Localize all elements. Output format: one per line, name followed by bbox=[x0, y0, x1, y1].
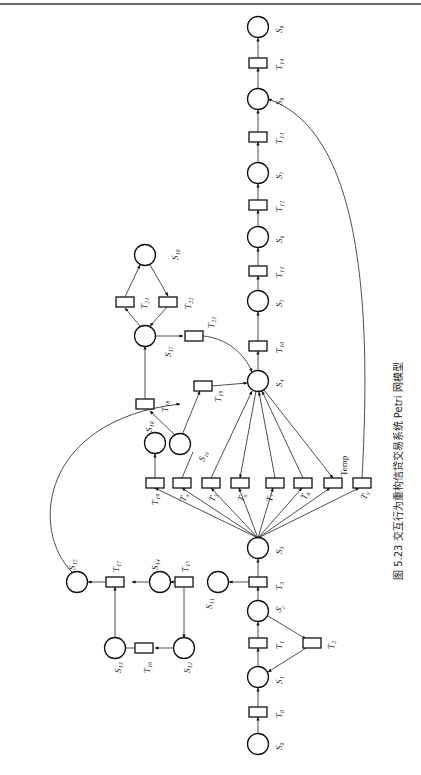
label-s1: S₁ bbox=[274, 676, 284, 684]
label-t13: T₁₃ bbox=[274, 133, 284, 144]
label-s5: S₅ bbox=[274, 299, 284, 307]
transitions bbox=[106, 58, 371, 717]
transition-t16 bbox=[175, 577, 193, 587]
place-s12 bbox=[174, 638, 195, 659]
place-s18 bbox=[135, 245, 156, 266]
transition-t7 bbox=[266, 478, 284, 488]
place-s17 bbox=[135, 326, 156, 347]
label-s10: S₁₀ bbox=[144, 421, 154, 432]
transition-t9 bbox=[353, 478, 371, 488]
label-t21b: T₂₁ bbox=[206, 317, 216, 328]
place-s1 bbox=[248, 667, 269, 688]
label-s17: S₁₇ bbox=[163, 346, 173, 357]
transition-t22 bbox=[159, 297, 177, 307]
transition-t14 bbox=[249, 58, 267, 68]
label-t16: T₁₅ bbox=[180, 561, 190, 572]
transition-t8 bbox=[294, 478, 312, 488]
label-t19: T₁₈ bbox=[160, 401, 170, 412]
label-t17: T₁₆ bbox=[142, 662, 152, 673]
label-s4: S₄ bbox=[274, 379, 284, 387]
place-s5 bbox=[248, 291, 269, 312]
label-t9: T₉ bbox=[358, 490, 370, 501]
petri-net-diagram: S₀ S₁ S₂ S₃ S₄ S₅ S₆ S₇ S₈ S₉ S₁₀ S₁₁ S₁… bbox=[0, 0, 421, 775]
transition-t6 bbox=[231, 478, 249, 488]
label-t12: T₁₂ bbox=[274, 201, 284, 212]
place-s13 bbox=[105, 638, 126, 659]
place-s2 bbox=[248, 601, 269, 622]
transition-t15 bbox=[146, 478, 164, 488]
label-t4: T₄ bbox=[177, 492, 189, 503]
label-t3: T₃ bbox=[274, 582, 284, 590]
label-temp: Temp bbox=[339, 455, 349, 476]
transition-t21b bbox=[185, 331, 203, 341]
label-t5: T₅ bbox=[206, 492, 218, 503]
label-t10: T₁₀ bbox=[274, 342, 284, 353]
place-s3 bbox=[248, 538, 269, 559]
label-s2: S₂ bbox=[273, 602, 285, 614]
label-t7: T₇ bbox=[264, 493, 275, 503]
place-s11 bbox=[208, 572, 229, 593]
label-t11: T₁₁ bbox=[274, 267, 284, 278]
transition-t18 bbox=[106, 577, 124, 587]
label-t18: T₁₇ bbox=[111, 561, 121, 572]
label-t2: T₂ bbox=[326, 641, 336, 649]
transition-t12 bbox=[249, 200, 267, 210]
transition-t11 bbox=[249, 266, 267, 276]
label-t1: T₁ bbox=[274, 641, 284, 649]
label-s9: S₉ bbox=[274, 25, 284, 33]
place-s8 bbox=[248, 89, 269, 110]
label-s15: S₁₅ bbox=[67, 559, 77, 570]
places bbox=[67, 17, 269, 755]
place-s7 bbox=[248, 163, 269, 184]
label-s7: S₇ bbox=[274, 171, 284, 179]
place-s4 bbox=[248, 371, 269, 392]
label-s14: S₁₄ bbox=[150, 559, 160, 570]
label-t0: T₀ bbox=[274, 710, 284, 718]
place-s6 bbox=[248, 227, 269, 248]
transition-t21a bbox=[116, 297, 134, 307]
transition-t10 bbox=[249, 341, 267, 351]
label-s18: S₁₈ bbox=[170, 249, 180, 260]
label-t15: T₁₉ bbox=[150, 494, 160, 505]
transition-t0 bbox=[249, 707, 267, 717]
label-s11: S₁₁ bbox=[204, 598, 214, 609]
transition-t1 bbox=[249, 638, 267, 648]
transition-t13 bbox=[249, 132, 267, 142]
label-s3: S₃ bbox=[274, 546, 284, 554]
figure-caption: 图 5.23 交互行为重构信贷交易系统 Petri 网模型 bbox=[392, 362, 404, 580]
transition-t3 bbox=[249, 577, 267, 587]
label-t6: T₆ bbox=[235, 492, 247, 503]
label-t21a: T₂₁ bbox=[139, 298, 149, 309]
label-s0: S₀ bbox=[274, 742, 284, 750]
transition-t19 bbox=[136, 399, 154, 409]
label-t22: T₂₂ bbox=[183, 298, 193, 309]
label-s12: S₁₂ bbox=[182, 662, 192, 673]
transition-t4 bbox=[173, 478, 191, 488]
transition-temp bbox=[324, 478, 342, 488]
place-s16 bbox=[170, 434, 191, 455]
place-s14 bbox=[150, 572, 171, 593]
place-s10 bbox=[145, 433, 166, 454]
label-t8: T₈ bbox=[298, 490, 310, 501]
transition-t20 bbox=[194, 381, 212, 391]
place-s15 bbox=[67, 572, 88, 593]
label-t14: T₁₄ bbox=[274, 59, 284, 70]
label-s6: S₆ bbox=[274, 235, 284, 243]
label-s16: S₁₆ bbox=[196, 449, 209, 463]
transition-t2 bbox=[303, 638, 321, 648]
label-s8: S₈ bbox=[274, 97, 284, 105]
label-s13: S₁₃ bbox=[113, 662, 123, 673]
transition-t5 bbox=[202, 478, 220, 488]
label-t20: T₁₉ bbox=[213, 391, 223, 402]
transition-t17 bbox=[135, 643, 153, 653]
place-s0 bbox=[248, 734, 269, 755]
place-s9 bbox=[248, 17, 269, 38]
